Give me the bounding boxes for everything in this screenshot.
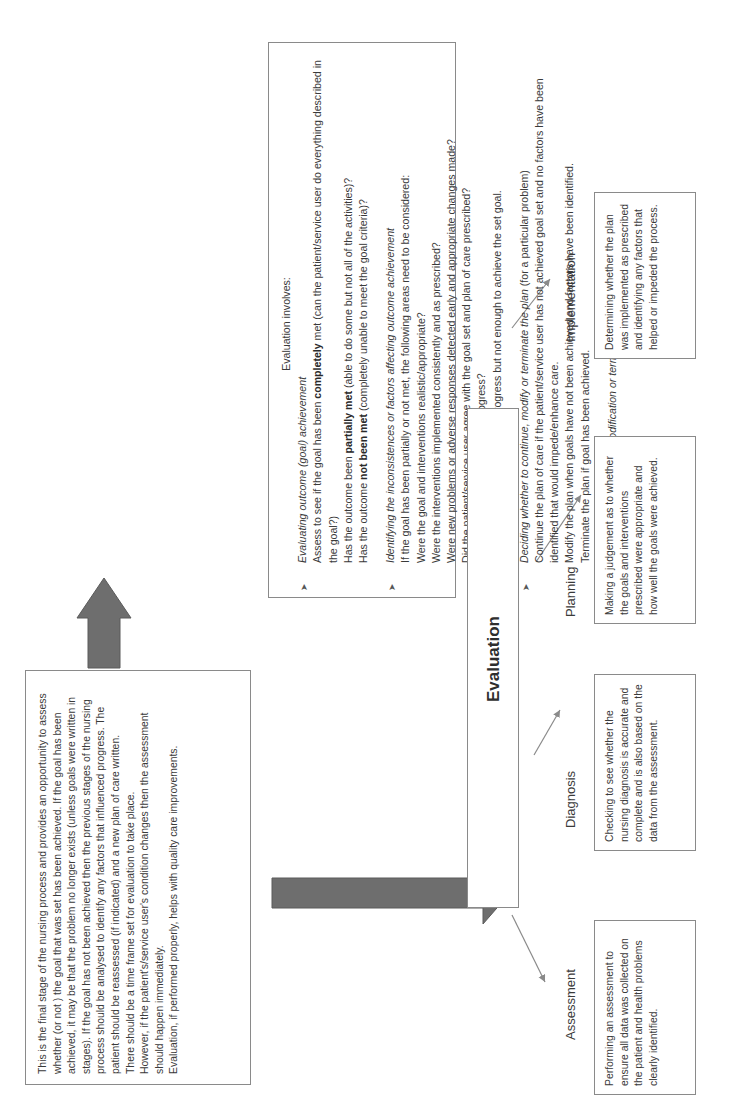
evaluation-section: ➤Evaluating outcome (goal) achievementAs…	[295, 57, 371, 591]
thick-arrow-up-icon	[77, 578, 131, 668]
stage-box-planning: Making a judgement as to whether the goa…	[594, 436, 696, 624]
evaluation-section-line: Has the outcome been partially met (able…	[341, 57, 356, 563]
intro-paragraph-4: Evaluation, if performed properly, helps…	[167, 681, 182, 1074]
intro-paragraph-3: However, if the patient's/service user's…	[138, 681, 167, 1074]
stage-label-implementation: Implementation	[563, 253, 578, 342]
stage-description-assessment: Performing an assessment to ensure all d…	[604, 938, 659, 1086]
evaluation-section-line: Terminate the plan if goal has been achi…	[578, 57, 593, 563]
stage-label-assessment: Assessment	[563, 969, 578, 1040]
stage-label-planning: Planning	[563, 566, 578, 617]
evaluation-section-title: Identifying the inconsistences or factor…	[383, 57, 398, 563]
evaluation-section-title: Evaluating outcome (goal) achievement	[295, 57, 310, 563]
arrow-to-diagnosis-icon	[534, 710, 560, 755]
evaluation-section-line: Were the interventions implemented consi…	[429, 57, 444, 563]
intro-paragraph-2: There should be a time frame set for eva…	[124, 681, 139, 1074]
intro-box: This is the final stage of the nursing p…	[25, 670, 251, 1085]
stage-description-implementation: Determining whether the plan was impleme…	[604, 204, 659, 350]
evaluation-center-box: Evaluation	[467, 408, 519, 908]
evaluation-section-line: Were the goal and interventions realisti…	[414, 57, 429, 563]
intro-paragraph-1: This is the final stage of the nursing p…	[36, 681, 124, 1074]
stage-description-planning: Making a judgement as to whether the goa…	[604, 456, 659, 615]
evaluation-section-line: Were new problems or adverse responses d…	[444, 57, 459, 563]
evaluation-section-line: Has the outcome not been met (completely…	[356, 57, 371, 563]
stage-label-diagnosis: Diagnosis	[563, 771, 578, 828]
arrowhead-bullet-icon: ➤	[295, 563, 312, 591]
evaluation-section-line: Continue the plan of care if the patient…	[532, 57, 562, 563]
stage-box-implementation: Determining whether the plan was impleme…	[594, 192, 696, 359]
evaluation-involves-heading: Evaluation involves:	[279, 57, 294, 591]
stage-description-diagnosis: Checking to see whether the nursing diag…	[604, 684, 659, 842]
stage-box-diagnosis: Checking to see whether the nursing diag…	[594, 674, 696, 851]
evaluation-section-line: Assess to see if the goal has been compl…	[310, 57, 340, 563]
evaluation-involves-box: Evaluation involves: ➤Evaluating outcome…	[268, 42, 456, 598]
evaluation-section-line: If the goal has been partially or not me…	[398, 57, 413, 563]
stage-box-assessment: Performing an assessment to ensure all d…	[594, 920, 696, 1095]
arrow-to-assessment-icon	[512, 915, 545, 982]
arrowhead-bullet-icon: ➤	[383, 563, 400, 591]
evaluation-section: ➤Deciding whether to continue, modify or…	[517, 57, 593, 591]
evaluation-title: Evaluation	[484, 616, 504, 702]
